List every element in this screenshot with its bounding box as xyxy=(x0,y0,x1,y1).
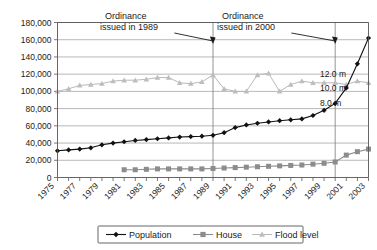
data-point-house xyxy=(344,153,349,158)
flood-level-label: 12.0 m xyxy=(320,69,346,79)
x-tick-label: 1981 xyxy=(102,181,123,202)
legend-label-house: House xyxy=(216,230,242,240)
data-point-population xyxy=(299,116,304,121)
data-point-house xyxy=(277,163,282,168)
data-point-population xyxy=(266,119,271,124)
data-point-house xyxy=(233,165,238,170)
data-point-population xyxy=(188,134,193,139)
y-tick-label: 80,000 xyxy=(26,104,52,114)
y-tick-label: 160,000 xyxy=(21,35,52,45)
flood-level-labels: 12.0 m10.0 m8.0 m xyxy=(320,69,346,108)
x-tick-label: 2001 xyxy=(324,181,345,202)
data-point-house xyxy=(122,167,127,172)
legend-marker-house xyxy=(200,232,205,237)
data-point-population xyxy=(77,146,82,151)
data-point-population xyxy=(255,121,260,126)
data-point-population xyxy=(177,134,182,139)
y-tick-label: 20,000 xyxy=(26,155,52,165)
y-tick-label: 40,000 xyxy=(26,138,52,148)
flood-level-label: 10.0 m xyxy=(320,83,346,93)
data-point-house xyxy=(255,164,260,169)
data-point-population xyxy=(310,113,315,118)
data-point-population xyxy=(88,145,93,150)
data-point-population xyxy=(144,137,149,142)
data-point-house xyxy=(222,166,227,171)
y-tick-label: 60,000 xyxy=(26,121,52,131)
data-point-population xyxy=(355,61,360,66)
data-point-house xyxy=(288,163,293,168)
data-point-population xyxy=(277,118,282,123)
x-tick-label: 1985 xyxy=(147,181,168,202)
annotation-line2-2000: issued in 2000 xyxy=(217,22,275,32)
data-point-population xyxy=(133,138,138,143)
annotation-line1-2000: Ordinance xyxy=(222,11,264,21)
x-tick-label: 1989 xyxy=(191,181,212,202)
x-axis-ticks: 1975197719791981198319851987198919911993… xyxy=(35,178,368,202)
y-tick-label: 140,000 xyxy=(21,52,52,62)
annotation-line2-1989: issued in 1989 xyxy=(100,22,158,32)
x-tick-label: 1975 xyxy=(35,181,56,202)
x-tick-label: 1991 xyxy=(213,181,234,202)
data-point-house xyxy=(155,166,160,171)
annotation-line1-1989: Ordinance xyxy=(105,11,147,21)
y-axis-ticks: 020,00040,00060,00080,000100,000120,0001… xyxy=(21,18,58,183)
x-tick-label: 1977 xyxy=(58,181,79,202)
annotations: Ordinanceissued in 1989Ordinanceissued i… xyxy=(100,11,338,44)
x-tick-label: 1993 xyxy=(235,181,256,202)
data-point-flood-level xyxy=(355,78,361,83)
data-point-house xyxy=(199,166,204,171)
data-point-house xyxy=(322,161,327,166)
ordinance-vertical-lines xyxy=(213,23,335,178)
data-point-house xyxy=(133,167,138,172)
legend-label-flood-level: Flood level xyxy=(275,230,319,240)
data-point-population xyxy=(122,139,127,144)
legend-label-population: Population xyxy=(129,230,172,240)
data-point-population xyxy=(110,140,115,145)
data-point-population xyxy=(222,130,227,135)
data-point-population xyxy=(244,122,249,127)
data-point-population xyxy=(66,147,71,152)
data-point-flood-level xyxy=(199,79,205,84)
data-point-population xyxy=(166,135,171,140)
y-tick-label: 100,000 xyxy=(21,86,52,96)
flood-population-chart: 020,00040,00060,00080,000100,000120,0001… xyxy=(0,0,377,250)
x-tick-label: 1999 xyxy=(302,181,323,202)
x-tick-label: 2003 xyxy=(346,181,367,202)
data-point-flood-level xyxy=(266,71,272,76)
chart-canvas: 020,00040,00060,00080,000100,000120,0001… xyxy=(0,0,377,250)
data-point-flood-level xyxy=(210,72,216,77)
data-point-house xyxy=(144,167,149,172)
x-tick-label: 1983 xyxy=(124,181,145,202)
data-point-house xyxy=(166,166,171,171)
x-tick-label: 1995 xyxy=(258,181,279,202)
data-point-house xyxy=(310,162,315,167)
flood-level-label: 8.0 m xyxy=(320,98,341,108)
data-point-house xyxy=(244,165,249,170)
data-point-flood-level xyxy=(299,78,305,83)
data-point-house xyxy=(299,163,304,168)
x-tick-label: 1979 xyxy=(80,181,101,202)
data-point-population xyxy=(155,136,160,141)
data-point-population xyxy=(288,117,293,122)
data-point-house xyxy=(211,166,216,171)
data-point-house xyxy=(355,149,360,154)
data-point-house xyxy=(333,160,338,165)
x-tick-label: 1997 xyxy=(280,181,301,202)
chart-legend: PopulationHouseFlood level xyxy=(98,226,319,243)
data-point-house xyxy=(266,164,271,169)
x-tick-label: 1987 xyxy=(169,181,190,202)
y-tick-label: 180,000 xyxy=(21,18,52,28)
y-tick-label: 120,000 xyxy=(21,69,52,79)
data-point-house xyxy=(188,166,193,171)
data-point-population xyxy=(210,133,215,138)
data-point-house xyxy=(177,166,182,171)
data-point-population xyxy=(199,134,204,139)
